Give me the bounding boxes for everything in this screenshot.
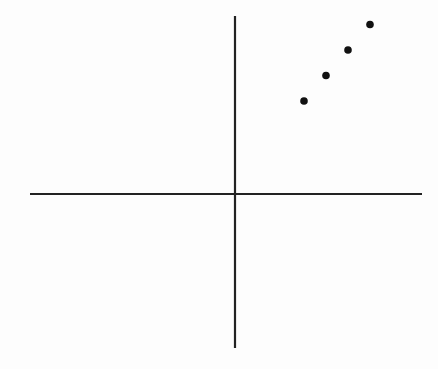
scatter-plot — [0, 0, 438, 369]
data-point — [344, 46, 352, 54]
data-point — [366, 21, 374, 29]
data-points — [300, 21, 374, 105]
data-point — [300, 97, 308, 105]
plot-canvas — [0, 0, 438, 369]
data-point — [322, 72, 330, 80]
